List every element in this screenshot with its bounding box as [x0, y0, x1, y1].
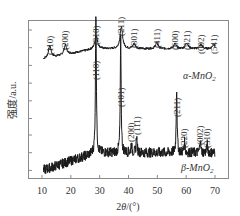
x-tick-label: 20 [66, 185, 76, 196]
peak-label: (211) [172, 98, 182, 117]
peak-label: (521) [182, 31, 192, 51]
x-tick-label: 30 [95, 185, 105, 196]
peak-label: (310) [91, 26, 101, 46]
peak-label: (411) [152, 29, 162, 48]
xrd-chart: 10203040506070 (110)(200)(310)(211)(301)… [0, 0, 240, 216]
peak-label: (110) [45, 36, 55, 55]
peak-label: (301) [129, 29, 139, 49]
x-tick-label: 60 [181, 185, 191, 196]
x-tick-label: 40 [124, 185, 134, 196]
x-tick-label: 10 [37, 185, 47, 196]
peak-label: (541) [209, 35, 219, 55]
peak-label: (310) [202, 129, 212, 149]
legend-beta: β-MnO2 [180, 162, 214, 175]
x-axis-label: 2θ/(°) [116, 201, 139, 213]
peak-label: (211) [116, 17, 126, 36]
peak-label: (600) [170, 31, 180, 51]
peak-label: (220) [179, 129, 189, 149]
x-tick-label: 50 [152, 185, 162, 196]
legend-alpha: α-MnO2 [183, 70, 216, 83]
y-axis-label: 强度/a.u. [6, 81, 18, 118]
peak-label: (111) [132, 116, 142, 135]
x-tick-label: 70 [210, 185, 220, 196]
peak-label: (101) [116, 88, 126, 108]
peak-label: (002) [196, 35, 206, 55]
peak-label: (110) [91, 61, 101, 80]
peak-label: (200) [60, 31, 70, 51]
y-axis-ticks [29, 30, 33, 170]
